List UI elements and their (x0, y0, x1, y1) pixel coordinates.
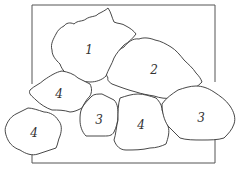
shrub-label-3a: 3 (95, 113, 103, 127)
shrub-label-3b: 3 (197, 111, 205, 125)
shrub-label-4a: 4 (54, 87, 63, 101)
shrub-label-2: 2 (149, 63, 158, 77)
shrub-label-4c: 4 (136, 118, 145, 132)
shrub-label-1: 1 (85, 43, 93, 57)
shrub-label-4b: 4 (29, 126, 38, 140)
planting-diagram: 1 2 4 3 4 4 3 (0, 0, 238, 170)
